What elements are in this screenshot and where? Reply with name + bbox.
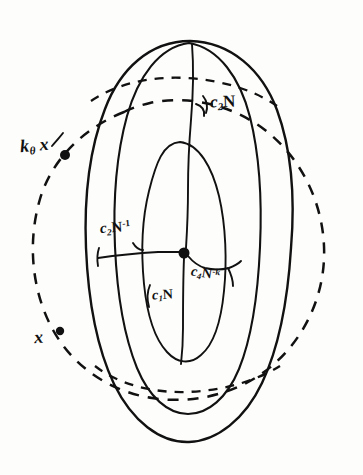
point-center — [179, 248, 190, 259]
horizontal-line-left — [98, 252, 181, 258]
c1n-bracket — [148, 285, 150, 307]
label-x: x — [33, 328, 43, 347]
meridian-tick-top — [196, 104, 204, 116]
label-c1n-rest: N — [162, 286, 173, 302]
label-ktheta-x: kθ x — [19, 135, 49, 158]
label-c2n: c2N — [210, 93, 236, 113]
label-c2n-rest: N — [223, 92, 236, 111]
point-ktheta-x — [60, 150, 70, 160]
diagram-svg — [0, 0, 363, 475]
ktheta-leader — [52, 133, 63, 146]
label-ktheta-sub: θ — [29, 144, 36, 156]
figure-canvas: c2N kθ x c2N-1 c4N-k c1N x — [0, 0, 363, 475]
label-c4nk-sup: -k — [212, 266, 221, 277]
point-x — [56, 327, 64, 335]
label-ktheta-rest: x — [39, 134, 50, 155]
label-c2n-inverse: c2N-1 — [99, 219, 130, 238]
meridian-line-lower — [181, 258, 184, 364]
outer-dashed-circle — [33, 100, 324, 400]
label-c2n-base: c — [210, 92, 218, 111]
label-c1n: c1N — [152, 287, 174, 303]
label-c2ninv-sup: -1 — [122, 218, 131, 229]
radial-arc-right-lower-tail — [228, 268, 233, 286]
